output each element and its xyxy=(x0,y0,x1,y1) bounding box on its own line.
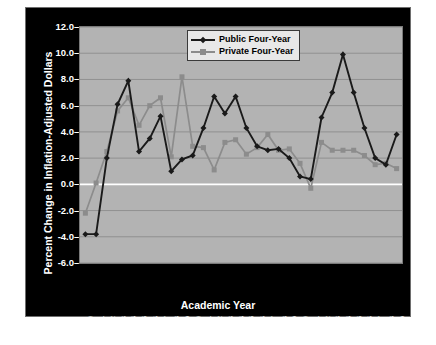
data-point-2001-02 xyxy=(319,114,325,120)
x-tick-2008-09: 2008-09 xyxy=(399,316,406,345)
data-point-1990-91 xyxy=(201,145,206,150)
x-tick-1985-86: 1985-86 xyxy=(152,316,159,345)
data-point-1979-80 xyxy=(83,211,88,216)
x-tick-1982-83: 1982-83 xyxy=(120,316,127,345)
x-tick-1983-84: 1983-84 xyxy=(130,316,137,345)
x-tick-2003-04: 2003-04 xyxy=(345,316,352,345)
data-point-2006-07 xyxy=(373,162,378,167)
y-tick-10.0: 10.0– xyxy=(56,47,79,58)
y-tick-2.0: 2.0– xyxy=(61,152,78,163)
x-tick-1990-91: 1990-91 xyxy=(205,316,212,345)
data-point-1989-90 xyxy=(190,152,196,158)
data-point-2001-02 xyxy=(319,140,324,145)
x-tick-2005-06: 2005-06 xyxy=(366,316,373,345)
x-tick-1979-80: 1979-80 xyxy=(87,316,94,345)
data-point-1989-90 xyxy=(190,144,195,149)
data-point-1986-87 xyxy=(158,95,163,100)
x-tick-2006-07: 2006-07 xyxy=(377,316,384,345)
data-point-1983-84 xyxy=(125,78,131,84)
x-tick-1981-82: 1981-82 xyxy=(109,316,116,345)
data-point-1993-94 xyxy=(233,137,238,142)
x-tick-1999-2000: 1999-2000 xyxy=(302,316,309,345)
data-point-1990-91 xyxy=(200,125,206,131)
legend-item-public-four-year: Public Four-Year xyxy=(191,33,294,45)
chart-legend: Public Four-YearPrivate Four-Year xyxy=(187,30,300,61)
data-point-1992-93 xyxy=(222,140,227,145)
data-point-1991-92 xyxy=(212,167,217,172)
y-tick-0.0: 0.0– xyxy=(61,178,78,189)
y-tick--6.0: -6.0– xyxy=(58,257,78,268)
data-point-1979-80 xyxy=(82,231,88,237)
y-tick--2.0: -2.0– xyxy=(58,204,78,215)
x-tick-2002-03: 2002-03 xyxy=(334,316,341,345)
x-tick-2004-05: 2004-05 xyxy=(356,316,363,345)
x-tick-1998-99: 1998-99 xyxy=(291,316,298,345)
x-tick-1991-92: 1991-92 xyxy=(216,316,223,345)
x-tick-2007-08: 2007-08 xyxy=(388,316,395,345)
y-tick--4.0: -4.0– xyxy=(58,230,78,241)
data-point-1994-95 xyxy=(244,152,249,157)
x-tick-1996-97: 1996-97 xyxy=(270,316,277,345)
x-tick-1986-87: 1986-87 xyxy=(163,316,170,345)
x-tick-1993-94: 1993-94 xyxy=(238,316,245,345)
plot-area xyxy=(79,26,403,264)
x-tick-1987-88: 1987-88 xyxy=(173,316,180,345)
chart-frame: Percent Change in Inflation-Adjusted Dol… xyxy=(25,7,411,317)
data-point-2005-06 xyxy=(362,153,367,158)
data-point-2005-06 xyxy=(361,125,367,131)
data-point-2003-04 xyxy=(340,148,345,153)
legend-item-private-four-year: Private Four-Year xyxy=(191,45,294,57)
data-point-1982-83 xyxy=(115,101,121,107)
data-point-2000-01 xyxy=(308,186,313,191)
x-tick-2000-01: 2000-01 xyxy=(313,316,320,345)
data-point-1999-2000 xyxy=(298,161,303,166)
x-tick-1992-93: 1992-93 xyxy=(227,316,234,345)
data-point-2002-03 xyxy=(329,90,335,96)
legend-label: Public Four-Year xyxy=(219,34,291,44)
data-point-1998-99 xyxy=(287,146,292,151)
series-line xyxy=(85,55,396,235)
x-tick-1984-85: 1984-85 xyxy=(141,316,148,345)
x-tick-1997-98: 1997-98 xyxy=(281,316,288,345)
data-point-2004-05 xyxy=(351,90,357,96)
data-point-2002-03 xyxy=(330,148,335,153)
x-axis-title: Academic Year xyxy=(26,299,410,311)
data-point-2008-09 xyxy=(394,132,400,138)
y-tick-8.0: 8.0– xyxy=(61,73,78,84)
x-tick-1994-95: 1994-95 xyxy=(248,316,255,345)
data-point-2008-09 xyxy=(394,166,399,171)
data-point-1985-86 xyxy=(147,103,152,108)
data-point-2004-05 xyxy=(351,148,356,153)
legend-label: Private Four-Year xyxy=(219,46,294,56)
data-point-1996-97 xyxy=(265,147,271,153)
x-tick-1988-89: 1988-89 xyxy=(184,316,191,345)
series-canvas xyxy=(80,27,402,263)
y-tick-6.0: 6.0– xyxy=(61,99,78,110)
data-point-2003-04 xyxy=(340,52,346,58)
y-axis-tick-labels: 12.0–10.0–8.0–6.0–4.0–2.0–0.0–-2.0–-4.0–… xyxy=(38,26,78,264)
y-tick-12.0: 12.0– xyxy=(56,21,79,32)
x-tick-1995-96: 1995-96 xyxy=(259,316,266,345)
y-tick-4.0: 4.0– xyxy=(61,125,78,136)
data-point-1988-89 xyxy=(179,74,184,79)
data-point-1996-97 xyxy=(265,132,270,137)
x-tick-2001-02: 2001-02 xyxy=(324,316,331,345)
data-point-1984-85 xyxy=(137,123,142,128)
series-line xyxy=(85,77,396,213)
data-point-1980-81 xyxy=(94,181,99,186)
x-tick-1980-81: 1980-81 xyxy=(98,316,105,345)
x-tick-1989-90: 1989-90 xyxy=(195,316,202,345)
diamond-marker-icon xyxy=(191,34,215,45)
square-marker-icon xyxy=(191,46,215,57)
data-point-1980-81 xyxy=(93,231,99,237)
